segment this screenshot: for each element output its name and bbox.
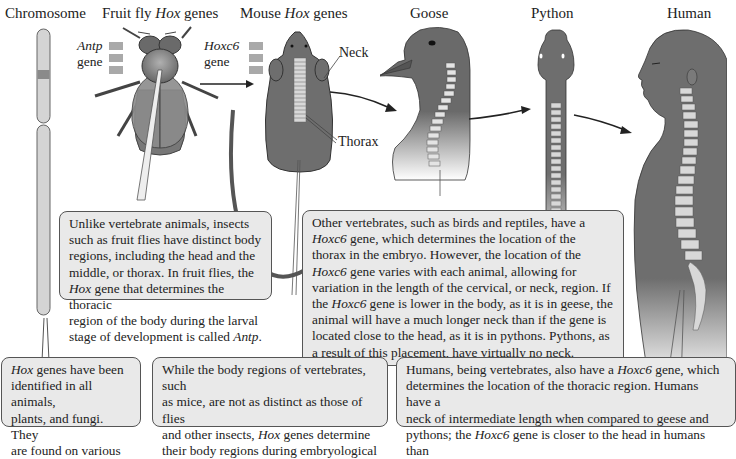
callout-line: plants, and fungi. They — [11, 411, 131, 443]
callout-line: thorax in the embryo. However, the locat… — [312, 247, 614, 263]
humans-callout: Humans, being vertebrates, also have a H… — [396, 357, 736, 427]
italic-term: Hoxc6 — [312, 231, 347, 246]
callout-line: Hoxc6 gene varies with each animal, allo… — [312, 264, 614, 280]
hoxc6-gene-boxes-icon — [249, 42, 263, 74]
callout-line: animal will have a much longer neck than… — [312, 312, 614, 328]
italic-term: Hoxc6 — [617, 362, 652, 377]
mice-callout: While the body regions of vertebrates, s… — [152, 357, 388, 427]
arrow-icon — [330, 92, 397, 112]
arrow-icon — [200, 80, 254, 88]
callout-line: Hoxc6 gene, which determines the locatio… — [312, 231, 614, 247]
callout-line: as mice, are not as distinct as those of… — [162, 394, 378, 426]
callout-text: genes determine — [280, 427, 370, 442]
arrow-icon — [469, 106, 531, 119]
italic-term: Hox — [69, 281, 91, 296]
callout-text: . — [258, 329, 261, 344]
callout-text: and other insects, — [162, 427, 258, 442]
callout-line: middle, or thorax. In fruit flies, the — [69, 265, 262, 281]
gene-word: gene — [77, 54, 102, 69]
callout-line: the Hoxc6 gene is lower in the body, as … — [312, 296, 614, 312]
callout-text: stage of development is called — [69, 329, 233, 344]
antp-gene-boxes-icon — [109, 42, 123, 74]
callout-line: region of the body during the larval — [69, 313, 262, 329]
callout-text: genes have been — [33, 362, 123, 377]
callout-line: their body regions during embryological — [162, 443, 378, 459]
callout-line: identified in all animals, — [11, 378, 131, 410]
callout-line: located close to the head, as it is in p… — [312, 328, 614, 344]
arrow-icon — [574, 115, 632, 134]
goose-icon — [380, 27, 470, 180]
gene-name: Hoxc6 — [204, 38, 239, 54]
callout-line: Unlike vertebrate animals, insects — [69, 216, 262, 232]
callout-line: are found on various — [11, 443, 131, 459]
italic-term: Hoxc6 — [475, 427, 510, 442]
fruit-fly-callout: Unlike vertebrate animals, insects such … — [59, 211, 272, 300]
hox-genes-callout: Hox genes have been identified in all an… — [1, 357, 141, 427]
callout-text: Humans, being vertebrates, also have a — [406, 362, 617, 377]
neck-label: Neck — [339, 45, 369, 61]
callout-text: the — [312, 296, 332, 311]
hoxc6-gene-label: Hoxc6 gene — [204, 38, 239, 70]
callout-text: pythons; the — [406, 427, 475, 442]
callout-line: stage of development is called Antp. — [69, 329, 262, 345]
gene-word: gene — [204, 54, 229, 69]
antp-gene-label: Antp gene — [77, 38, 103, 70]
callout-line: neck of intermediate length when compare… — [406, 411, 726, 427]
callout-text: gene that determines the thoracic — [69, 281, 224, 312]
callout-line: Hox genes have been — [11, 362, 131, 378]
italic-term: Hoxc6 — [332, 296, 367, 311]
gene-name: Antp — [77, 38, 103, 54]
callout-line: pythons; the Hoxc6 gene is closer to the… — [406, 427, 726, 459]
callout-line: regions, including the head and the — [69, 248, 262, 264]
chromosome-icon — [37, 29, 50, 315]
callout-text: gene varies with each animal, allowing f… — [347, 264, 577, 279]
callout-line: determines the location of the thoracic … — [406, 378, 726, 410]
thorax-label: Thorax — [338, 134, 378, 150]
callout-line: While the body regions of vertebrates, s… — [162, 362, 378, 394]
callout-line: Other vertebrates, such as birds and rep… — [312, 215, 614, 231]
mouse-spine-icon — [294, 58, 306, 122]
callout-text: gene, which — [652, 362, 720, 377]
callout-text: gene, which determines the location of t… — [347, 231, 576, 246]
callout-line: and other insects, Hox genes determine — [162, 427, 378, 443]
italic-term: Hox — [11, 362, 33, 377]
birds-reptiles-callout: Other vertebrates, such as birds and rep… — [302, 210, 624, 366]
callout-line: such as fruit flies have distinct body — [69, 232, 262, 248]
italic-term: Hoxc6 — [312, 264, 347, 279]
italic-term: Hox — [258, 427, 280, 442]
callout-text: gene is lower in the body, as it is in g… — [366, 296, 613, 311]
callout-line: Humans, being vertebrates, also have a H… — [406, 362, 726, 378]
callout-line: variation in the length of the cervical,… — [312, 280, 614, 296]
callout-line: Hox gene that determines the thoracic — [69, 281, 262, 313]
italic-term: Antp — [233, 329, 258, 344]
